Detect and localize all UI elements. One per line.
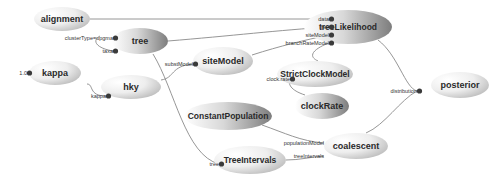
port-dot-icon [106,93,111,98]
port-dot-icon [329,24,334,29]
node-coalescent[interactable]: coalescent [324,133,388,159]
port-dot-icon [417,88,422,93]
port-coal-treeIntervals[interactable]: treeIntervals [294,153,325,159]
node-clockRate[interactable]: clockRate [295,93,349,119]
port-kappa-value[interactable]: 1.0 [19,70,32,76]
node-label: alignment [41,14,84,24]
node-label: TreeIntervals [224,155,277,165]
model-graph-canvas: alignmenttreekappahkysiteModeltreeLikeli… [0,0,489,181]
port-label: populationModel [284,140,324,146]
port-dot-icon [113,35,118,40]
port-dot-icon [219,161,224,166]
port-dot-icon [329,40,334,45]
node-TreeIntervals[interactable]: TreeIntervals [214,146,286,174]
node-label: hky [123,82,139,92]
node-label: clockRate [301,101,344,111]
port-tl-branchRateModel[interactable]: branchRateModel [286,40,335,46]
port-label: clusterType=upgma [65,35,114,41]
port-label: clock.rate [266,76,290,82]
port-dot-icon [113,48,118,53]
edge-treeLikelihood-to-posterior-distribution [378,40,417,91]
port-hky-kappa[interactable]: kappa [91,93,111,99]
port-dot-icon [27,70,32,75]
port-ti-tree[interactable]: tree [210,161,225,167]
node-label: siteModel [202,56,244,66]
node-tree[interactable]: tree [112,28,168,54]
node-alignment[interactable]: alignment [34,7,90,31]
node-label: tree [132,36,149,46]
port-tree-taxa[interactable]: taxa [103,48,119,54]
node-label: posterior [440,80,480,90]
port-label: tree [210,161,219,167]
port-label: taxa [103,48,114,54]
node-label: coalescent [333,141,380,151]
node-treeLikelihood[interactable]: treeLikelihood [304,10,392,44]
port-posterior-distribution[interactable]: distribution [390,88,422,94]
node-StrictClockModel[interactable]: StrictClockModel [277,61,353,87]
port-label: treeIntervals [294,153,325,159]
port-coal-populationModel[interactable]: populationModel [284,140,324,146]
port-label: 1.0 [19,70,27,76]
port-label: branchRateModel [286,40,329,46]
port-label: tree [320,24,329,30]
port-tl-data[interactable]: data [318,16,334,22]
port-dot-icon [290,76,295,81]
port-dot-icon [329,16,334,21]
port-dot-icon [329,32,334,37]
node-label: kappa [42,68,69,78]
node-siteModel[interactable]: siteModel [193,47,253,75]
port-label: substModel [165,61,193,67]
node-ConstantPopulation[interactable]: ConstantPopulation [184,102,272,130]
node-posterior[interactable]: posterior [431,72,489,98]
port-tree-clusterType[interactable]: clusterType=upgma [65,35,118,41]
edge-coalescent-to-posterior-distribution [366,91,417,133]
port-dot-icon [193,61,198,66]
port-label: kappa [91,93,107,99]
port-tl-tree[interactable]: tree [320,24,335,30]
port-label: distribution [390,88,417,94]
node-label: ConstantPopulation [188,111,269,121]
node-kappa[interactable]: kappa [29,61,81,85]
port-label: data [318,16,330,22]
port-label: siteModel [305,32,329,38]
